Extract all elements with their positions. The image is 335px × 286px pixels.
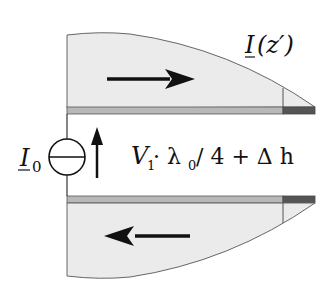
upper-conductor-end	[283, 107, 315, 114]
source-symbol: I	[19, 144, 30, 172]
current-source-icon	[49, 139, 85, 175]
current-arg: (z′)	[257, 31, 294, 59]
expr-tail: / 4 + Δ h	[196, 144, 294, 169]
lower-conductor-end	[283, 196, 315, 203]
length-expression: V 1 · λ 0 / 4 + Δ h	[131, 142, 294, 173]
current-distribution-label: I (z′)	[244, 31, 294, 59]
lower-current-distribution	[67, 203, 315, 278]
upper-conductor	[67, 107, 283, 114]
lower-conductor	[67, 196, 283, 203]
source-subscript: 0	[32, 158, 42, 176]
source-arrow-up-icon	[91, 127, 103, 178]
dipole-diagram: I (z′) I 0 V 1 · λ 0 / 4 + Δ h	[0, 0, 335, 286]
source-label: I 0	[18, 144, 42, 176]
expr-mid: · λ	[153, 144, 181, 169]
current-symbol: I	[244, 31, 255, 59]
